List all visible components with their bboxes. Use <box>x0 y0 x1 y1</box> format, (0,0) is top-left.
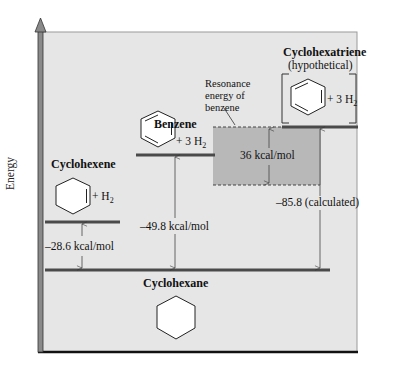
benzene-label: Benzene <box>154 118 197 130</box>
resonance-energy-value: 36 kcal/mol <box>240 150 295 162</box>
cyclohexatriene-label: Cyclohexatriene <box>283 46 366 58</box>
benzene-reagent: + 3 H2 <box>176 136 206 148</box>
energy-value-cyclohexene: –28.6 kcal/mol <box>45 241 114 253</box>
energy-value-cyclohexatriene: –85.8 (calculated) <box>276 197 359 209</box>
cyclohexatriene-note: (hypothetical) <box>288 60 353 72</box>
energy-axis <box>38 30 43 352</box>
resonance-energy-label: Resonance energy of benzene <box>205 78 250 114</box>
cyclohexatriene-reagent: + 3 H2 <box>327 94 357 106</box>
cyclohexene-label: Cyclohexene <box>51 158 116 170</box>
cyclohexane-label: Cyclohexane <box>143 277 208 289</box>
energy-axis-label: Energy <box>4 157 16 190</box>
cyclohexene-reagent: + H2 <box>92 191 114 203</box>
energy-value-benzene: –49.8 kcal/mol <box>140 221 209 233</box>
energy-axis-arrowhead-icon <box>35 18 46 32</box>
